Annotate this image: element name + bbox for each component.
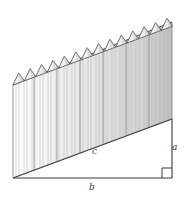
label-c: c	[92, 147, 97, 156]
fence-triangle-svg	[0, 0, 184, 199]
label-b: b	[89, 183, 95, 192]
label-a: a	[172, 143, 177, 152]
geometry-figure: a b c	[0, 0, 184, 199]
